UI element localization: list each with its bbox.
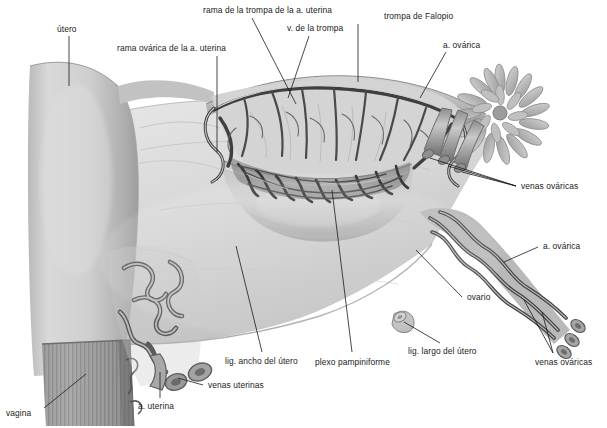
label-a-ovarica-top: a. ovárica [443,40,480,50]
label-lig-largo: lig. largo del útero [408,346,477,356]
label-venas-ovaricas-2: venas ováricas [535,357,592,367]
label-lig-ancho: lig. ancho del útero [225,356,298,366]
label-a-ovarica-right: a. ovárica [543,241,580,251]
illustration-canvas [0,0,607,428]
label-trompa-falopio: trompa de Falopio [384,11,453,21]
anatomical-figure: útero rama ovárica de la a. uterina rama… [0,0,607,428]
label-ovario: ovario [467,292,490,302]
label-rama-ovarica: rama ovárica de la a. uterina [117,43,226,53]
label-plexo: plexo pampiniforme [315,357,390,367]
label-venas-ovaricas-1: venas ováricas [521,181,578,191]
label-rama-trompa: rama de la trompa de la a. uterina [203,5,332,15]
label-vagina: vagina [6,408,31,418]
label-utero: útero [57,24,77,34]
label-venas-uterinas: venas uterinas [208,380,264,390]
label-a-uterina: a. uterina [138,401,174,411]
label-v-trompa: v. de la trompa [287,23,343,33]
